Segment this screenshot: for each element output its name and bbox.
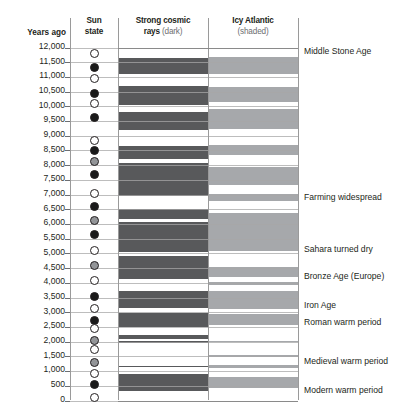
gridline [70,371,298,372]
gridline [70,77,298,78]
cosmic-rays-band [118,222,208,251]
gridline [70,150,298,151]
y-axis-label: 11,000 [5,71,65,80]
annotation-label: Iron Age [304,301,336,310]
sun-state-dot-white [90,189,99,198]
column-header-cosmic-rays: Strong cosmic rays (dark) [118,16,208,37]
gridline [70,268,298,269]
sun-state-dot-black [90,380,99,389]
y-axis-label: 6,500 [5,204,65,213]
y-axis-label: 6,000 [5,218,65,227]
cosmic-rays-band [118,335,208,339]
gridline [70,298,298,299]
sun-state-dot-grey [90,336,99,345]
sun-state-dot-white [90,74,99,83]
plot-frame-line [118,401,298,402]
icy-atlantic-band [208,213,298,251]
sun-state-dot-grey [90,261,99,270]
sun-state-dot-white [90,369,99,378]
sun-state-dot-black [90,292,99,301]
y-axis-label: 4,500 [5,263,65,272]
gridline [70,356,298,357]
cosmic-rays-band [118,86,208,105]
gridline [70,224,298,225]
sun-state-dot-black [90,170,99,179]
gridline [70,312,298,313]
y-axis-label: 12,000 [5,42,65,51]
icy-atlantic-label-qualifier: (shaded) [237,27,268,36]
sun-state-dot-black [90,316,99,325]
sun-state-dot-white [90,136,99,145]
gridline [70,136,298,137]
y-axis-label: 10,500 [5,86,65,95]
y-axis-label: 9,500 [5,115,65,124]
y-axis-label: 500 [5,380,65,389]
gridline [70,195,298,196]
column-divider [298,18,299,400]
icy-atlantic-band [208,57,298,74]
y-axis-label: 10,000 [5,101,65,110]
gridline [70,209,298,210]
cosmic-rays-band [118,374,208,391]
sun-state-dot-grey [90,216,99,225]
annotation-label: Farming widespread [304,193,382,202]
annotation-label: Bronze Age (Europe) [304,272,384,281]
y-axis-label: 0 [5,395,65,404]
gridline [70,62,298,63]
sun-state-dot-white [90,99,99,108]
column-header-years-ago: Years ago [0,28,66,37]
annotation-label: Modern warm period [304,386,383,395]
gridline [70,283,298,284]
sun-state-label-line1: Sun [87,16,102,25]
icy-atlantic-band [208,267,298,276]
sun-state-dot-black [90,146,99,155]
icy-atlantic-band [208,167,298,185]
sun-state-dot-black [90,202,99,211]
sun-state-dot-black [90,63,99,72]
y-axis-label: 4,000 [5,277,65,286]
y-axis-label: 7,000 [5,189,65,198]
column-header-sun-state: Sun state [70,16,118,37]
gridline [70,386,298,387]
climate-timeline-chart: Years ago Sun state Strong cosmic rays (… [0,0,412,410]
y-axis-label: 3,000 [5,307,65,316]
y-axis-label: 2,000 [5,336,65,345]
sun-state-dot-white [90,246,99,255]
y-axis-label: 5,000 [5,248,65,257]
gridline [70,106,298,107]
cosmic-rays-band [118,58,208,74]
y-axis-label: 9,000 [5,130,65,139]
column-divider [208,18,209,400]
y-axis-label: 3,500 [5,292,65,301]
cosmic-rays-band [118,146,208,160]
sun-state-dot-white [90,345,99,354]
gridline [70,92,298,93]
sun-state-dot-white [90,304,99,313]
icy-atlantic-band [208,87,298,102]
y-axis-label: 8,000 [5,160,65,169]
sun-state-dot-white [90,276,99,285]
gridline [70,253,298,254]
cosmic-rays-band [118,291,208,309]
sun-state-dot-grey [90,358,99,367]
y-axis-label: 1,000 [5,365,65,374]
sun-state-dot-white [90,393,99,402]
plot-frame-line [118,48,298,49]
annotation-label: Sahara turned dry [304,245,373,254]
cosmic-rays-label-line1: Strong cosmic [136,16,191,25]
gridline [70,165,298,166]
annotation-label: Roman warm period [304,318,381,327]
cosmic-rays-label-qualifier: (dark) [162,27,182,36]
annotation-label: Medieval warm period [304,357,388,366]
sun-state-dot-black [90,89,99,98]
icy-atlantic-label-line1: Icy Atlantic [232,16,273,25]
y-axis-label: 11,500 [5,57,65,66]
icy-atlantic-band [208,377,298,389]
sun-state-dot-black [90,113,99,122]
icy-atlantic-band [208,365,298,368]
cosmic-rays-band [118,366,208,368]
icy-atlantic-band [208,291,298,309]
annotation-label: Middle Stone Age [304,47,371,56]
icy-atlantic-band [208,109,298,129]
icy-atlantic-band [208,314,298,325]
